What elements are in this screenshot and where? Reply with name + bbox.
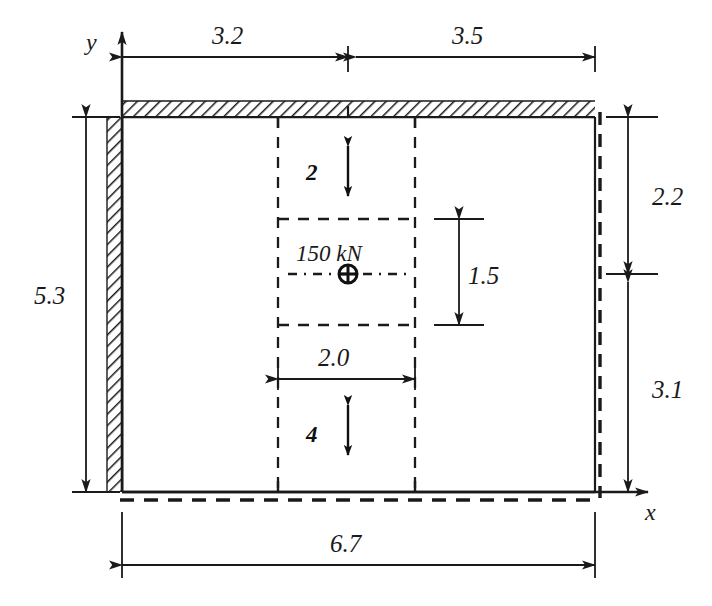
dimension-label-inner-height: 1.5 xyxy=(468,262,499,289)
dimension-label-bottom: 6.7 xyxy=(330,530,363,557)
dimension-bottom-6-7: 6.7 xyxy=(122,512,595,578)
load-magnitude-label: 150 kN xyxy=(296,241,363,266)
gap-indicator-top: 2 xyxy=(305,146,348,196)
dimension-label-inner-width: 2.0 xyxy=(318,344,350,371)
left-fixed-support-hatching xyxy=(107,117,122,492)
dimension-label-top-left: 3.2 xyxy=(211,22,243,49)
dimension-top-left-3-2: 3.2 xyxy=(122,22,348,72)
point-load-icon xyxy=(339,265,357,283)
plate-outline xyxy=(122,117,595,492)
dimension-label-right-upper: 2.2 xyxy=(652,183,683,210)
load-centerline-group: 150 kN xyxy=(288,241,408,283)
dimension-label-left: 5.3 xyxy=(34,282,65,309)
gap-label-bottom: 4 xyxy=(305,422,318,447)
top-fixed-support-hatching xyxy=(122,101,595,116)
dimension-label-right-lower: 3.1 xyxy=(651,376,683,403)
x-axis-label: x xyxy=(644,499,656,525)
gap-indicator-bottom: 4 xyxy=(305,405,348,455)
dimension-right-lower-3-1: 3.1 xyxy=(628,282,683,492)
gap-label-top: 2 xyxy=(305,160,318,185)
dimension-label-top-right: 3.5 xyxy=(451,22,483,49)
edge-tick-marks xyxy=(278,106,415,492)
y-axis-label: y xyxy=(84,29,97,55)
dimension-inner-height-1-5: 1.5 xyxy=(434,219,499,325)
dimension-top-right-3-5: 3.5 xyxy=(356,22,595,72)
dimension-inner-width-2-0: 2.0 xyxy=(278,344,415,390)
reference-dashed-lines xyxy=(120,112,600,500)
engineering-diagram-figure: y x xyxy=(0,0,712,606)
diagram-canvas: y x xyxy=(0,0,712,606)
interior-dashed-lines xyxy=(278,117,415,492)
dimension-right-upper-2-2: 2.2 xyxy=(606,117,683,274)
